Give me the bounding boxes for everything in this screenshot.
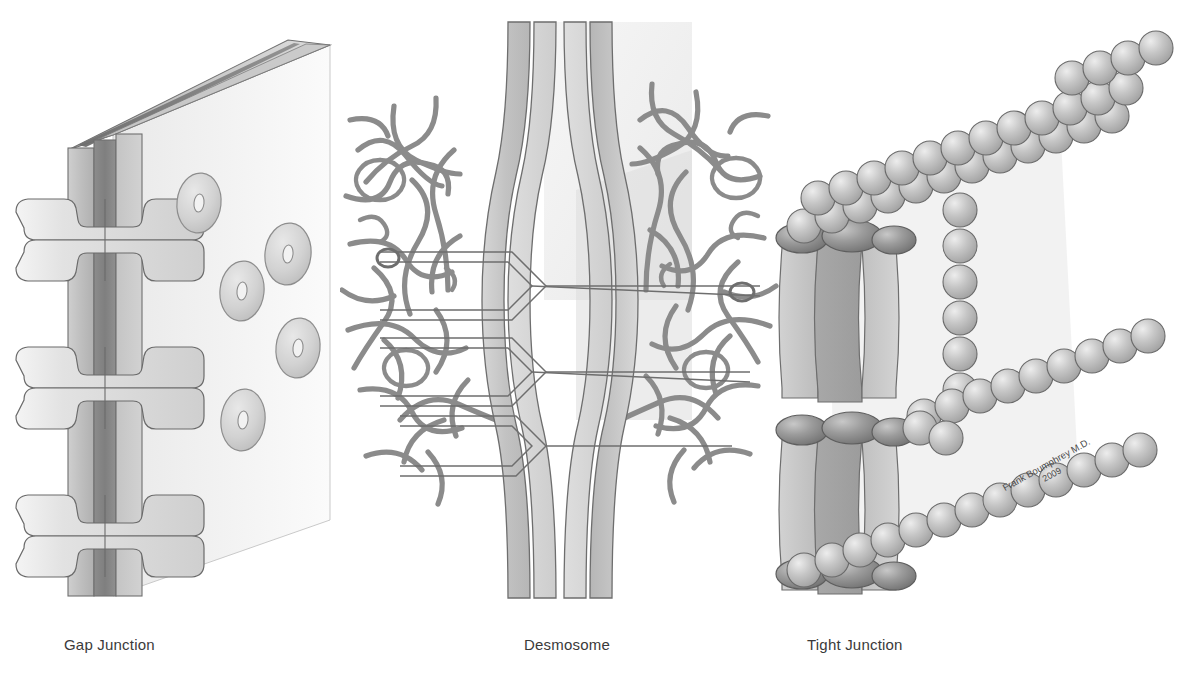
cell-junctions-figure: Frank Boumphrey M.D. 2009 Gap Junction D… [0,0,1194,687]
desmosome-illustration [340,0,780,620]
panel-desmosome [340,0,780,620]
membrane-segment [779,234,899,402]
panel-tight-junction [760,0,1194,620]
caption-tight-junction: Tight Junction [807,636,903,653]
tight-junction-illustration [760,0,1194,620]
caption-desmosome: Desmosome [524,636,610,653]
keratin-filaments-left [342,98,502,504]
caption-gap-junction: Gap Junction [64,636,155,653]
